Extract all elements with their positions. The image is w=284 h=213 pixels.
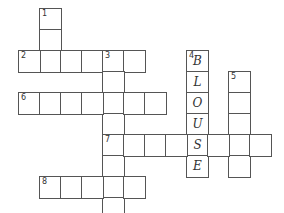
crossword-cell[interactable] — [228, 113, 251, 136]
crossword-cell[interactable]: 3 — [102, 50, 125, 73]
crossword-cell[interactable]: U — [186, 113, 209, 136]
crossword-grid: 12374BLOUSE568 — [0, 0, 284, 213]
crossword-cell[interactable] — [102, 71, 125, 94]
crossword-cell[interactable] — [228, 134, 251, 157]
clue-number: 2 — [21, 51, 26, 60]
crossword-cell[interactable] — [144, 92, 167, 115]
crossword-cell[interactable]: 8 — [39, 176, 62, 199]
crossword-cell[interactable]: 7 — [102, 134, 125, 157]
crossword-cell[interactable]: 6 — [18, 92, 41, 115]
crossword-cell[interactable]: 1 — [39, 8, 62, 31]
clue-number: 6 — [21, 93, 26, 102]
cell-letter: B — [187, 54, 208, 68]
clue-number: 8 — [42, 177, 47, 186]
cell-letter: E — [187, 159, 208, 173]
crossword-cell[interactable] — [123, 134, 146, 157]
crossword-cell[interactable]: 2 — [18, 50, 41, 73]
crossword-cell[interactable]: E — [186, 155, 209, 178]
crossword-cell[interactable]: 4B — [186, 50, 209, 73]
clue-number: 5 — [231, 72, 236, 81]
crossword-cell[interactable] — [102, 197, 125, 213]
crossword-cell[interactable] — [249, 134, 272, 157]
clue-number: 1 — [42, 9, 47, 18]
clue-number: 7 — [105, 135, 110, 144]
cell-letter: O — [187, 96, 208, 110]
crossword-cell[interactable] — [81, 92, 104, 115]
crossword-cell[interactable] — [60, 50, 83, 73]
crossword-cell[interactable]: L — [186, 71, 209, 94]
cell-letter: L — [187, 75, 208, 89]
crossword-cell[interactable] — [60, 176, 83, 199]
crossword-cell[interactable] — [228, 155, 251, 178]
crossword-cell[interactable] — [39, 29, 62, 52]
crossword-cell[interactable] — [81, 176, 104, 199]
crossword-cell[interactable]: 5 — [228, 71, 251, 94]
crossword-cell[interactable] — [228, 92, 251, 115]
crossword-cell[interactable] — [81, 50, 104, 73]
crossword-cell[interactable]: S — [186, 134, 209, 157]
crossword-cell[interactable] — [144, 134, 167, 157]
crossword-cell[interactable] — [207, 134, 230, 157]
crossword-cell[interactable] — [60, 92, 83, 115]
cell-letter: S — [187, 138, 208, 152]
crossword-cell[interactable] — [123, 92, 146, 115]
cell-letter: U — [187, 117, 208, 131]
crossword-cell[interactable] — [39, 92, 62, 115]
crossword-cell[interactable] — [123, 176, 146, 199]
crossword-cell[interactable] — [165, 134, 188, 157]
crossword-cell[interactable] — [39, 50, 62, 73]
crossword-cell[interactable]: O — [186, 92, 209, 115]
crossword-cell[interactable] — [102, 176, 125, 199]
crossword-cell[interactable] — [102, 155, 125, 178]
crossword-cell[interactable] — [102, 92, 125, 115]
clue-number: 3 — [105, 51, 110, 60]
crossword-cell[interactable] — [123, 50, 146, 73]
crossword-cell[interactable] — [102, 113, 125, 136]
